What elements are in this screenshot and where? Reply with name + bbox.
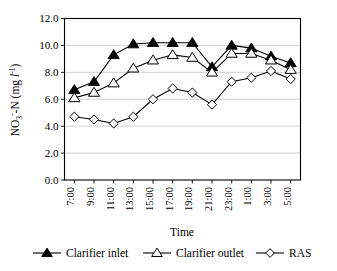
y-tick-label: 10.0 <box>39 39 59 51</box>
x-tick-label: 13:00 <box>124 187 135 211</box>
x-tick-label: 15:00 <box>144 187 155 211</box>
y-tick-label: 8.0 <box>45 66 59 78</box>
legend-label: RAS <box>289 247 311 259</box>
y-tick-label: 6.0 <box>45 93 59 105</box>
x-tick-label: 1:00 <box>242 187 253 206</box>
y-tick-label: 2.0 <box>45 147 59 159</box>
x-tick-label: 23:00 <box>223 187 234 211</box>
y-tick-label: 0.0 <box>45 174 59 186</box>
x-tick-label: 9:00 <box>85 187 96 206</box>
x-axis-title: Time <box>170 226 194 238</box>
chart-figure: 0.02.04.06.08.010.012.0 7:009:0011:0013:… <box>0 0 337 271</box>
legend-label: Clarifier inlet <box>66 247 129 259</box>
x-tick-label: 19:00 <box>183 187 194 211</box>
x-tick-label: 5:00 <box>282 187 293 206</box>
legend-label: Clarifier outlet <box>176 247 245 259</box>
x-tick-label: 7:00 <box>65 187 76 206</box>
x-tick-label: 11:00 <box>105 187 116 211</box>
y-tick-label: 4.0 <box>45 120 59 132</box>
nitrate-time-series-chart: 0.02.04.06.08.010.012.0 7:009:0011:0013:… <box>0 0 337 271</box>
y-tick-label: 12.0 <box>39 12 59 24</box>
x-tick-label: 17:00 <box>164 187 175 211</box>
x-tick-label: 21:00 <box>203 187 214 211</box>
x-tick-label: 3:00 <box>262 187 273 206</box>
